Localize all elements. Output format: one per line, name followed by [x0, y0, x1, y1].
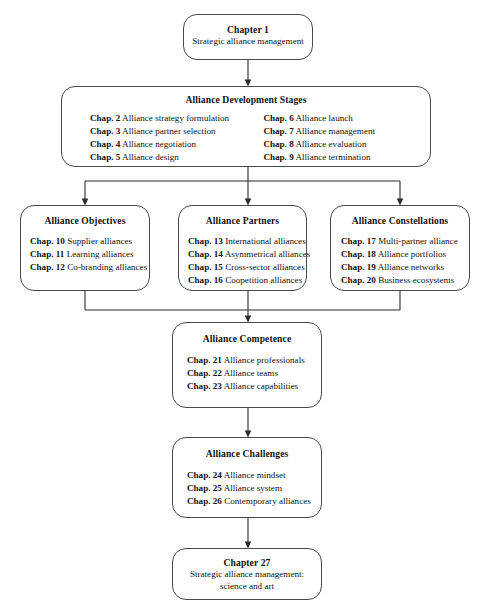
- chapter-number: Chap. 23: [187, 381, 222, 391]
- chapter-title: Contemporary alliances: [222, 496, 311, 506]
- chapter-number: Chap. 12: [30, 262, 65, 272]
- alliance-challenges-list: Chap. 24 Alliance mindsetChap. 25 Allian…: [173, 460, 321, 508]
- chapter-number: Chap. 26: [187, 496, 222, 506]
- chapter-row: Chap. 14 Asymmetrical alliances: [188, 248, 306, 261]
- node-alliance-constellations: Alliance Constellations Chap. 17 Multi-p…: [330, 205, 470, 291]
- chapter-number: Chap. 9: [263, 152, 293, 162]
- chapter-number: Chap. 7: [263, 126, 293, 136]
- chapter-row: Chap. 7 Alliance management: [263, 125, 430, 138]
- node-alliance-challenges: Alliance Challenges Chap. 24 Alliance mi…: [172, 437, 322, 518]
- chapter-row: Chap. 6 Alliance launch: [263, 112, 430, 125]
- chapter-row: Chap. 4 Alliance negotiation: [90, 138, 263, 151]
- chapter-title: Alliance teams: [222, 368, 278, 378]
- chapter-title: Learning alliances: [64, 249, 133, 259]
- chapter-row: Chap. 2 Alliance strategy formulation: [90, 112, 263, 125]
- chapter-number: Chap. 2: [90, 113, 120, 123]
- chapter-row: Chap. 15 Cross-sector alliances: [188, 261, 306, 274]
- node-chapter-1: Chapter 1 Strategic alliance management: [183, 14, 313, 60]
- chapter-number: Chap. 10: [30, 236, 65, 246]
- chapter-row: Chap. 10 Supplier alliances: [30, 235, 149, 248]
- chapter-number: Chap. 19: [341, 262, 376, 272]
- chapter-row: Chap. 5 Alliance design: [90, 151, 263, 164]
- node-alliance-constellations-title: Alliance Constellations: [331, 215, 469, 227]
- chapter-number: Chap. 25: [187, 483, 222, 493]
- chapter-number: Chap. 18: [341, 249, 376, 259]
- chapter-title: International alliances: [223, 236, 306, 246]
- chapter-row: Chap. 24 Alliance mindset: [187, 469, 321, 482]
- node-chapter-27-subtitle-line-2: science and art: [173, 581, 321, 593]
- node-alliance-development-stages: Alliance Development Stages Chap. 2 Alli…: [61, 86, 431, 167]
- chapter-title: Asymmetrical alliances: [223, 249, 310, 259]
- chapter-row: Chap. 22 Alliance teams: [187, 367, 321, 380]
- node-alliance-challenges-title: Alliance Challenges: [173, 448, 321, 460]
- chapter-number: Chap. 13: [188, 236, 223, 246]
- chapter-title: Alliance capabilities: [222, 381, 298, 391]
- dev-stages-right-column: Chap. 6 Alliance launchChap. 7 Alliance …: [263, 112, 430, 164]
- chapter-title: Alliance management: [294, 126, 375, 136]
- node-chapter-1-title: Chapter 1: [184, 24, 312, 36]
- alliance-partners-list: Chap. 13 International alliancesChap. 14…: [179, 227, 306, 287]
- chapter-title: Alliance termination: [294, 152, 371, 162]
- chapter-title: Alliance negotiation: [120, 139, 196, 149]
- chapter-title: Alliance strategy formulation: [120, 113, 229, 123]
- dev-stages-columns: Chap. 2 Alliance strategy formulationCha…: [62, 106, 430, 164]
- chapter-number: Chap. 3: [90, 126, 120, 136]
- chapter-title: Multi-partner alliance: [376, 236, 458, 246]
- chapter-number: Chap. 6: [263, 113, 293, 123]
- chapter-title: Alliance portfolios: [376, 249, 446, 259]
- chapter-row: Chap. 21 Alliance professionals: [187, 354, 321, 367]
- chapter-title: Alliance professionals: [222, 355, 305, 365]
- chapter-title: Alliance partner selection: [120, 126, 215, 136]
- chapter-number: Chap. 5: [90, 152, 120, 162]
- diagram-canvas: Chapter 1 Strategic alliance management …: [0, 0, 492, 615]
- chapter-title: Alliance system: [222, 483, 282, 493]
- chapter-row: Chap. 12 Co-branding alliances: [30, 261, 149, 274]
- chapter-title: Alliance launch: [294, 113, 353, 123]
- chapter-number: Chap. 16: [188, 275, 223, 285]
- chapter-title: Co-branding alliances: [65, 262, 147, 272]
- chapter-row: Chap. 3 Alliance partner selection: [90, 125, 263, 138]
- node-alliance-objectives-title: Alliance Objectives: [21, 215, 149, 227]
- chapter-row: Chap. 17 Multi-partner alliance: [341, 235, 469, 248]
- chapter-title: Coopetition alliances: [223, 275, 302, 285]
- chapter-number: Chap. 20: [341, 275, 376, 285]
- chapter-number: Chap. 15: [188, 262, 223, 272]
- chapter-number: Chap. 11: [30, 249, 64, 259]
- chapter-row: Chap. 11 Learning alliances: [30, 248, 149, 261]
- chapter-title: Cross-sector alliances: [223, 262, 305, 272]
- node-alliance-partners-title: Alliance Partners: [179, 215, 306, 227]
- node-alliance-partners: Alliance Partners Chap. 13 International…: [178, 205, 307, 291]
- dev-stages-left-column: Chap. 2 Alliance strategy formulationCha…: [90, 112, 263, 164]
- chapter-number: Chap. 14: [188, 249, 223, 259]
- chapter-title: Supplier alliances: [65, 236, 132, 246]
- alliance-objectives-list: Chap. 10 Supplier alliancesChap. 11 Lear…: [21, 227, 149, 274]
- alliance-competence-list: Chap. 21 Alliance professionalsChap. 22 …: [173, 345, 321, 393]
- chapter-number: Chap. 22: [187, 368, 222, 378]
- chapter-row: Chap. 16 Coopetition alliances: [188, 274, 306, 287]
- chapter-row: Chap. 26 Contemporary alliances: [187, 495, 321, 508]
- chapter-row: Chap. 20 Business ecosystems: [341, 274, 469, 287]
- node-chapter-27-subtitle-line-1: Strategic alliance management:: [173, 569, 321, 581]
- chapter-number: Chap. 17: [341, 236, 376, 246]
- node-alliance-development-stages-title: Alliance Development Stages: [62, 94, 430, 106]
- chapter-row: Chap. 18 Alliance portfolios: [341, 248, 469, 261]
- node-alliance-objectives: Alliance Objectives Chap. 10 Supplier al…: [20, 205, 150, 291]
- chapter-title: Business ecosystems: [376, 275, 454, 285]
- chapter-number: Chap. 24: [187, 470, 222, 480]
- chapter-row: Chap. 8 Alliance evaluation: [263, 138, 430, 151]
- chapter-row: Chap. 23 Alliance capabilities: [187, 380, 321, 393]
- node-chapter-27: Chapter 27 Strategic alliance management…: [172, 548, 322, 600]
- chapter-title: Alliance evaluation: [294, 139, 367, 149]
- chapter-number: Chap. 8: [263, 139, 293, 149]
- node-chapter-1-subtitle: Strategic alliance management: [184, 36, 312, 48]
- node-chapter-27-title: Chapter 27: [173, 557, 321, 569]
- chapter-title: Alliance networks: [376, 262, 444, 272]
- chapter-number: Chap. 21: [187, 355, 222, 365]
- node-alliance-competence-title: Alliance Competence: [173, 333, 321, 345]
- alliance-constellations-list: Chap. 17 Multi-partner allianceChap. 18 …: [331, 227, 469, 287]
- chapter-row: Chap. 13 International alliances: [188, 235, 306, 248]
- chapter-number: Chap. 4: [90, 139, 120, 149]
- chapter-title: Alliance design: [120, 152, 179, 162]
- chapter-row: Chap. 19 Alliance networks: [341, 261, 469, 274]
- chapter-row: Chap. 9 Alliance termination: [263, 151, 430, 164]
